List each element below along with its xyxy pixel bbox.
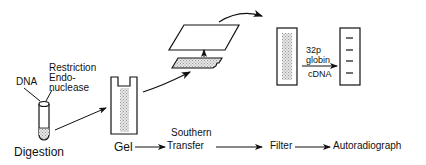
filter-sheet-icon xyxy=(169,25,239,50)
digestion-label: Digestion xyxy=(14,146,64,158)
arrow-to-filter xyxy=(219,14,262,22)
dna-pointer xyxy=(24,88,40,101)
southern-label-1: Southern xyxy=(171,128,212,138)
arrow-to-transfer xyxy=(143,72,190,92)
southern-blot-diagram: DNA Restriction Endo- nuclease Digestion… xyxy=(0,0,426,165)
restriction-label-3: nuclease xyxy=(49,83,89,93)
gel-slab-icon xyxy=(172,58,222,68)
filter-strip-icon xyxy=(277,28,297,85)
probe-label-2: globin xyxy=(306,56,330,65)
autoradiograph-film-icon xyxy=(340,28,360,85)
gel-icon xyxy=(111,77,137,134)
filter-label: Filter xyxy=(270,141,292,151)
dna-label: DNA xyxy=(16,77,37,87)
arrow-to-gel xyxy=(55,108,106,130)
gel-label: Gel xyxy=(114,141,133,153)
autoradiograph-label: Autoradiograph xyxy=(333,141,401,151)
probe-label-3: cDNA xyxy=(308,70,332,79)
southern-label-2: Transfer xyxy=(167,141,204,151)
test-tube-icon xyxy=(39,102,49,141)
probe-label-1: 32p xyxy=(306,46,321,55)
